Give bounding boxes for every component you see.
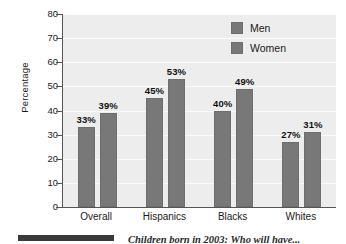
bar [304, 132, 321, 207]
bar [282, 142, 299, 207]
y-tick-label: 40 [32, 106, 58, 116]
bar [100, 113, 117, 207]
gridline [63, 14, 336, 15]
y-tick-label: 10 [32, 178, 58, 188]
bar-value-label: 49% [228, 77, 261, 87]
y-tick-label: 80 [32, 9, 58, 19]
bar-chart-figure: Percentage 80706050403020100 33%39%45%53… [0, 0, 346, 244]
y-tick-label: 50 [32, 81, 58, 91]
bar [146, 98, 163, 207]
y-tick-label: 70 [32, 33, 58, 43]
bar [168, 79, 185, 207]
y-tick-label: 0 [32, 202, 58, 212]
bar [214, 111, 231, 208]
bar [236, 89, 253, 207]
caption-rule [18, 235, 114, 241]
bar-value-label: 31% [296, 120, 329, 130]
x-tick-label: Whites [261, 211, 341, 222]
legend-label: Women [250, 42, 286, 54]
legend-label: Men [250, 22, 270, 34]
bar-value-label: 39% [92, 101, 125, 111]
y-tick-label: 60 [32, 57, 58, 67]
legend-swatch [231, 42, 243, 54]
legend-item: Women [231, 40, 323, 56]
bar-value-label: 27% [274, 130, 307, 140]
y-axis-label: Percentage [19, 33, 30, 143]
gridline [63, 62, 336, 63]
figure-caption: Children born in 2003: Who will have... [128, 234, 346, 244]
bar-value-label: 53% [160, 67, 193, 77]
bar-value-label: 45% [138, 86, 171, 96]
legend-swatch [231, 22, 243, 34]
bar [78, 127, 95, 207]
y-tick-label: 20 [32, 154, 58, 164]
bar-value-label: 40% [206, 99, 239, 109]
legend: MenWomen [231, 20, 323, 60]
y-tick-label: 30 [32, 130, 58, 140]
bar-value-label: 33% [70, 115, 103, 125]
gridline [63, 86, 336, 87]
legend-item: Men [231, 20, 323, 36]
